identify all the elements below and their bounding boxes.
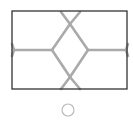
hex-pattern bbox=[12, 12, 128, 89]
circle-indicator-icon[interactable] bbox=[62, 104, 74, 116]
pattern-figure bbox=[0, 0, 133, 120]
